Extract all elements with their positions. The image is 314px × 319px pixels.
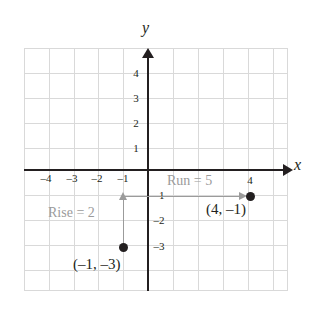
gridline-horizontal xyxy=(24,270,288,271)
gridline-horizontal xyxy=(24,123,288,124)
rise-label: Rise = 2 xyxy=(48,205,95,221)
y-axis-label: y xyxy=(142,19,149,37)
coordinate-plane-figure: x y –4 –3 –2 –1 4 4 3 2 1 –1 –2 –3 Rise … xyxy=(0,0,314,319)
x-tick-label--1: –1 xyxy=(113,172,133,184)
data-point-dot xyxy=(246,192,255,201)
x-axis-label: x xyxy=(294,156,301,174)
x-tick-label--3: –3 xyxy=(62,172,82,184)
y-tick-label--3: –3 xyxy=(149,240,169,252)
y-tick-label-3: 3 xyxy=(126,92,146,104)
y-tick-label-2: 2 xyxy=(126,117,146,129)
gridline-horizontal xyxy=(24,48,288,49)
run-arrow-line xyxy=(123,196,244,197)
gridline-horizontal xyxy=(24,98,288,99)
y-tick-label-4: 4 xyxy=(126,67,146,79)
x-axis-arrowhead-icon xyxy=(283,164,293,176)
gridline-horizontal xyxy=(24,148,288,149)
y-tick-label--2: –2 xyxy=(149,214,169,226)
x-tick-label--2: –2 xyxy=(87,172,107,184)
gridline-horizontal xyxy=(24,73,288,74)
data-point-label: (4, –1) xyxy=(206,201,246,218)
data-point-label: (–1, –3) xyxy=(73,256,121,273)
y-tick-label--1: –1 xyxy=(149,189,169,201)
x-tick-label-4: 4 xyxy=(240,174,260,186)
y-tick-label-1: 1 xyxy=(126,142,146,154)
x-tick-label--4: –4 xyxy=(36,172,56,184)
rise-arrow-line xyxy=(123,200,124,248)
y-axis xyxy=(147,58,149,291)
run-label: Run = 5 xyxy=(167,173,212,189)
gridline-horizontal xyxy=(24,290,288,291)
y-axis-arrowhead-icon xyxy=(142,48,154,58)
data-point-dot xyxy=(119,243,128,252)
x-axis xyxy=(24,169,284,171)
